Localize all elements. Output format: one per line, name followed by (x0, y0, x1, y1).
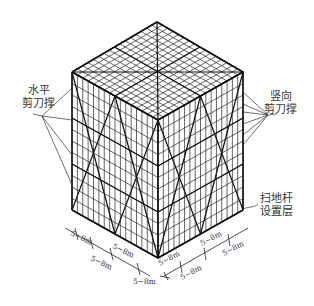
dim-left-1: 5~8m (69, 229, 94, 247)
sweep-rod-layer-label-line2: 设置层 (260, 205, 293, 218)
dim-left-2: 5~8m (89, 254, 114, 272)
right-face-grid (158, 72, 243, 258)
sweep-rod-leader (243, 204, 258, 209)
scaffold-diagram: 5~8m 5~8m 5~8m 5~8m 5~8m 5~8m 5~8m 5~8m (0, 0, 314, 306)
horizontal-brace-label-line2: 剪刀撑 (22, 97, 55, 110)
vertical-brace-label-line2: 剪刀撑 (264, 103, 297, 116)
horizontal-brace-label: 水平 剪刀撑 (22, 84, 55, 110)
vertical-brace-label-line1: 竖向 (264, 90, 297, 103)
sweep-rod-layer-label-line1: 扫地杆 (260, 192, 293, 205)
dim-right-3: 5~8m (199, 229, 223, 248)
left-face-grid (72, 72, 158, 258)
sweep-rod-layer-label: 扫地杆 设置层 (260, 192, 293, 218)
dim-left-4: 5~8m (133, 277, 156, 286)
vertical-brace-label: 竖向 剪刀撑 (264, 90, 297, 116)
horizontal-brace-label-line1: 水平 (22, 84, 55, 97)
